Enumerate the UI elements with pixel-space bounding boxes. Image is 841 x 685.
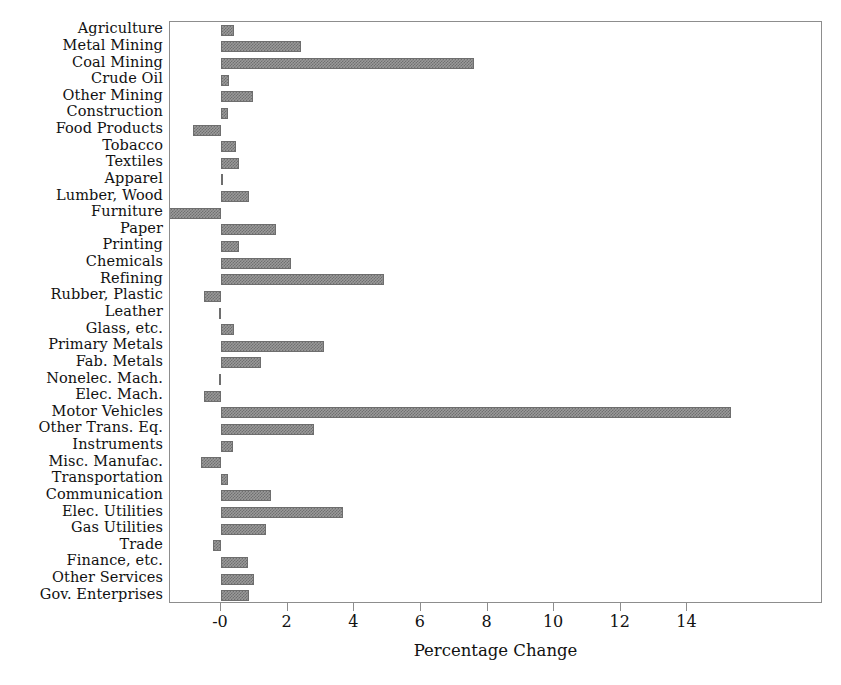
axis-tick: [487, 603, 488, 611]
bar: [221, 574, 254, 585]
category-label: Nonelec. Mach.: [0, 371, 163, 386]
category-label: Tobacco: [0, 138, 163, 153]
bar: [221, 174, 223, 185]
bar: [221, 91, 253, 102]
axis-tick-label: 14: [656, 612, 716, 631]
category-label: Trade: [0, 537, 163, 552]
bar: [221, 407, 731, 418]
category-label: Crude Oil: [0, 71, 163, 86]
axis-tick-label: 12: [590, 612, 650, 631]
bar: [221, 474, 228, 485]
bar: [221, 191, 249, 202]
category-label: Other Trans. Eq.: [0, 420, 163, 435]
bar: [221, 141, 236, 152]
axis-tick: [287, 603, 288, 611]
category-label: Gov. Enterprises: [0, 587, 163, 602]
plot-area: [169, 21, 822, 603]
category-label: Chemicals: [0, 254, 163, 269]
axis-tick-label: 6: [390, 612, 450, 631]
value-axis: -02468101214: [169, 603, 822, 633]
category-label: Textiles: [0, 154, 163, 169]
bar: [221, 274, 384, 285]
axis-tick-label: 10: [523, 612, 583, 631]
bar: [221, 25, 234, 36]
bar: [219, 308, 221, 319]
category-label: Food Products: [0, 121, 163, 136]
category-label: Furniture: [0, 204, 163, 219]
category-label: Rubber, Plastic: [0, 287, 163, 302]
category-label: Leather: [0, 304, 163, 319]
category-label: Elec. Mach.: [0, 387, 163, 402]
category-label: Printing: [0, 237, 163, 252]
axis-tick-label: 8: [457, 612, 517, 631]
axis-tick: [220, 603, 221, 611]
bar: [213, 540, 221, 551]
bar: [221, 557, 248, 568]
axis-tick: [553, 603, 554, 611]
category-label: Agriculture: [0, 21, 163, 36]
bar: [221, 490, 271, 501]
bar: [204, 291, 221, 302]
axis-tick: [620, 603, 621, 611]
bar: [221, 590, 249, 601]
bar: [221, 241, 239, 252]
category-label: Elec. Utilities: [0, 504, 163, 519]
bar: [204, 391, 221, 402]
category-label: Transportation: [0, 470, 163, 485]
bar: [221, 441, 233, 452]
bar: [169, 208, 221, 219]
bar: [221, 424, 314, 435]
category-label: Glass, etc.: [0, 321, 163, 336]
category-label: Apparel: [0, 171, 163, 186]
category-label: Primary Metals: [0, 337, 163, 352]
category-label: Lumber, Wood: [0, 188, 163, 203]
category-label: Misc. Manufac.: [0, 454, 163, 469]
axis-tick: [686, 603, 687, 611]
category-label: Finance, etc.: [0, 553, 163, 568]
category-label: Paper: [0, 221, 163, 236]
category-label: Motor Vehicles: [0, 404, 163, 419]
axis-tick-label: 2: [257, 612, 317, 631]
bar: [221, 357, 261, 368]
bar: [221, 224, 276, 235]
category-label: Other Mining: [0, 88, 163, 103]
axis-tick: [353, 603, 354, 611]
bar: [221, 41, 301, 52]
category-label: Gas Utilities: [0, 520, 163, 535]
category-label: Coal Mining: [0, 55, 163, 70]
bar: [221, 341, 324, 352]
bar: [193, 125, 221, 136]
category-label: Refining: [0, 271, 163, 286]
category-label: Fab. Metals: [0, 354, 163, 369]
bar-chart-figure: AgricultureMetal MiningCoal MiningCrude …: [0, 0, 841, 685]
axis-tick-label: -0: [190, 612, 250, 631]
bar: [221, 524, 266, 535]
bar: [221, 75, 229, 86]
category-label: Construction: [0, 104, 163, 119]
bar: [221, 58, 474, 69]
category-label: Metal Mining: [0, 38, 163, 53]
bar: [221, 158, 239, 169]
bar: [221, 258, 291, 269]
axis-tick-label: 4: [323, 612, 383, 631]
category-axis-labels: AgricultureMetal MiningCoal MiningCrude …: [0, 21, 163, 603]
bar: [221, 507, 343, 518]
category-label: Other Services: [0, 570, 163, 585]
bar: [221, 108, 228, 119]
x-axis-title: Percentage Change: [169, 641, 822, 660]
axis-tick: [420, 603, 421, 611]
bar: [201, 457, 221, 468]
bar: [219, 374, 221, 385]
category-label: Instruments: [0, 437, 163, 452]
category-label: Communication: [0, 487, 163, 502]
bar: [221, 324, 234, 335]
